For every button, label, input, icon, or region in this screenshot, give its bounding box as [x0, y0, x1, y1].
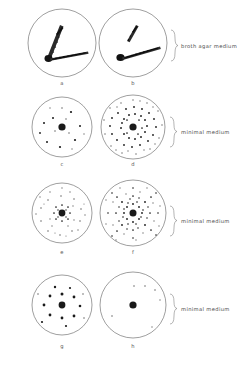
panel-letter-c: c — [60, 161, 63, 167]
medium-group-3: minimal medium — [170, 206, 230, 236]
panel-e: e — [32, 183, 92, 255]
panel-letter-h: h — [131, 343, 135, 349]
medium-label-2: minimal medium — [181, 129, 230, 135]
medium-label-4: minimal medium — [181, 306, 230, 312]
petri-dish-figure: a b broth agar medium — [0, 0, 241, 365]
panel-letter-d: d — [131, 161, 135, 167]
panel-f: f — [100, 180, 166, 255]
panel-d: d — [101, 95, 165, 167]
brace-1 — [171, 30, 178, 61]
panel-b: b — [99, 9, 167, 86]
dish-outline-b — [99, 9, 167, 77]
brace-3 — [170, 206, 177, 236]
medium-group-2: minimal medium — [170, 117, 230, 147]
dish-outline-a — [28, 9, 96, 77]
panel-letter-b: b — [131, 80, 135, 86]
panel-g: g — [32, 275, 92, 350]
panel-letter-e: e — [60, 249, 63, 255]
panel-a: a — [28, 9, 96, 86]
brace-2 — [170, 117, 177, 147]
medium-group-4: minimal medium — [170, 294, 230, 324]
medium-group-1: broth agar medium — [171, 30, 237, 61]
medium-label-1: broth agar medium — [181, 43, 237, 50]
panel-c: c — [32, 97, 92, 167]
panel-letter-g: g — [60, 343, 64, 350]
panel-letter-a: a — [60, 80, 63, 86]
medium-label-3: minimal medium — [181, 218, 230, 224]
panel-h: h — [100, 272, 166, 349]
panel-letter-f: f — [132, 249, 134, 255]
brace-4 — [170, 294, 177, 324]
